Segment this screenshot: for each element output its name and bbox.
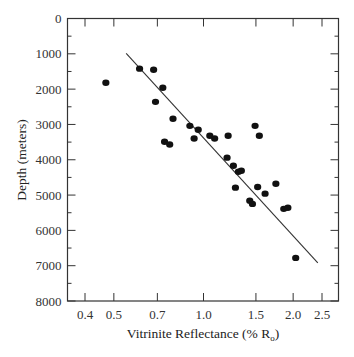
data-point [249, 201, 256, 207]
data-point [225, 133, 232, 139]
data-point [230, 163, 237, 169]
data-point [169, 116, 176, 122]
y-tick-label: 0 [55, 11, 62, 26]
data-point [186, 123, 193, 129]
x-tick-label: 2.5 [314, 307, 330, 322]
data-point [254, 184, 261, 190]
data-point [166, 141, 173, 147]
data-point [292, 255, 299, 261]
y-tick-label: 1000 [36, 46, 62, 61]
data-point [238, 167, 245, 173]
x-tick-label: 2.0 [285, 307, 301, 322]
y-tick-label: 8000 [36, 294, 62, 309]
y-tick-label: 2000 [36, 82, 62, 97]
x-tick-label: 0.5 [106, 307, 122, 322]
data-point [232, 184, 239, 190]
x-tick-label: 0.7 [149, 307, 166, 322]
data-point [191, 135, 198, 141]
data-point [152, 99, 159, 105]
data-point [211, 135, 218, 141]
x-axis: 0.40.50.71.01.52.02.5 [77, 19, 330, 323]
y-tick-label: 5000 [36, 188, 62, 203]
data-point [150, 67, 157, 73]
trend-line [126, 53, 318, 262]
y-tick-label: 4000 [36, 152, 62, 167]
data-point [195, 127, 202, 133]
data-point [284, 205, 291, 211]
y-axis-title: Depth (meters) [14, 119, 29, 200]
data-point [136, 65, 143, 71]
x-axis-title: Vitrinite Reflectance (% Ro) [127, 326, 280, 343]
data-point [223, 154, 230, 160]
scatter-chart: 010002000300040005000600070008000 0.40.5… [0, 0, 354, 357]
x-tick-label: 1.5 [248, 307, 264, 322]
y-tick-label: 3000 [36, 117, 62, 132]
x-tick-label: 1.0 [195, 307, 211, 322]
data-points [102, 65, 299, 261]
data-point [261, 190, 268, 196]
data-point [159, 85, 166, 91]
y-axis: 010002000300040005000600070008000 [36, 11, 339, 309]
data-point [272, 181, 279, 187]
y-tick-label: 7000 [36, 258, 62, 273]
y-tick-label: 6000 [36, 223, 62, 238]
data-point [256, 133, 263, 139]
data-point [251, 123, 258, 129]
data-point [102, 80, 109, 86]
x-tick-label: 0.4 [77, 307, 94, 322]
